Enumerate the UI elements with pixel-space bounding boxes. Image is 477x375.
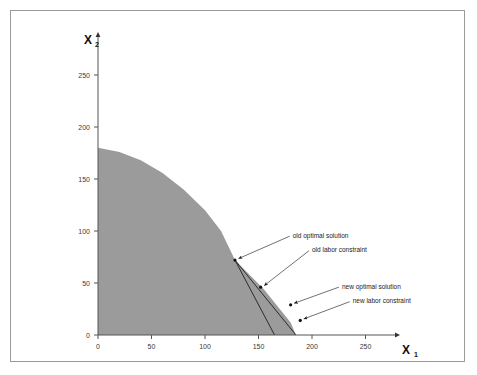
x-tick-label: 50	[148, 343, 156, 350]
annotation-label-new-optimal-solution: new optimal solution	[342, 283, 401, 291]
x-axis-ticks: 050100150200250	[96, 335, 371, 350]
x-tick-label: 250	[360, 343, 372, 350]
linear-programming-chart: 050100150200250 050100150200250 X 1 X 2 …	[0, 0, 477, 375]
y-tick-label: 200	[78, 124, 90, 131]
y-axis-title: X 2	[84, 33, 99, 48]
x-axis-title: X 1	[402, 343, 418, 358]
y-tick-label: 100	[78, 228, 90, 235]
annotation-leader-line	[238, 236, 289, 258]
annotation-point-marker	[289, 303, 292, 306]
annotation-leader-line	[294, 287, 339, 303]
x-axis-title-text: X	[402, 343, 410, 357]
y-tick-label: 0	[86, 332, 90, 339]
annotation-label-new-labor-constraint: new labor constraint	[353, 297, 411, 304]
annotation-point-marker	[233, 259, 236, 262]
annotation-point-marker	[259, 286, 262, 289]
x-axis-title-subscript: 1	[414, 351, 418, 358]
y-axis-title-subscript: 2	[95, 41, 99, 48]
annotation-point-marker	[299, 319, 302, 322]
y-tick-label: 50	[82, 280, 90, 287]
y-axis-title-text: X	[84, 33, 92, 47]
annotation-leader-line	[304, 302, 350, 319]
x-tick-label: 200	[306, 343, 318, 350]
x-tick-label: 100	[199, 343, 211, 350]
y-tick-label: 250	[78, 72, 90, 79]
annotation-label-old-optimal-solution: old optimal solution	[293, 232, 349, 240]
annotation-label-old-labor-constraint: old labor constraint	[312, 246, 367, 253]
x-tick-label: 150	[253, 343, 265, 350]
y-axis-ticks: 050100150200250	[78, 72, 98, 339]
x-tick-label: 0	[96, 343, 100, 350]
annotation-leader-line	[264, 251, 309, 286]
feasible-region	[98, 148, 296, 335]
y-tick-label: 150	[78, 176, 90, 183]
